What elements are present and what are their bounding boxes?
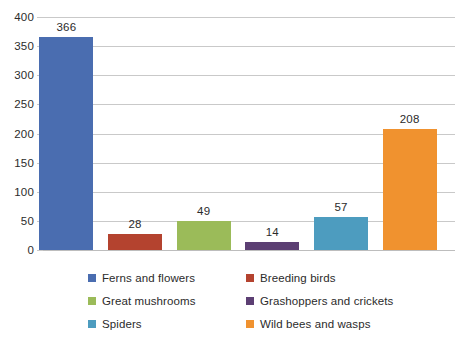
bar[interactable]: 14 <box>245 242 299 250</box>
y-axis-label: 50 <box>21 215 34 227</box>
bar[interactable]: 28 <box>108 234 162 250</box>
y-axis-label: 400 <box>14 11 34 23</box>
y-tick-mark-0 <box>37 250 43 251</box>
legend-swatch-icon <box>246 274 254 282</box>
gridline-400 <box>43 17 455 18</box>
y-axis-label: 200 <box>14 128 34 140</box>
bar-value-label: 28 <box>128 218 141 230</box>
plot-area: 400350300250200150100500 36628491457208 <box>43 17 455 250</box>
legend-swatch-icon <box>88 274 96 282</box>
gridline-0 <box>43 250 455 251</box>
legend-item[interactable]: Grashoppers and crickets <box>246 295 448 307</box>
legend-label: Spiders <box>102 318 142 330</box>
y-axis-label: 300 <box>14 69 34 81</box>
bar-value-label: 366 <box>56 21 76 33</box>
bar-value-label: 14 <box>266 226 279 238</box>
y-axis-label: 250 <box>14 98 34 110</box>
bar[interactable]: 57 <box>314 217 368 250</box>
bar-value-label: 57 <box>334 201 347 213</box>
legend-item[interactable]: Spiders <box>88 318 240 330</box>
legend-label: Ferns and flowers <box>102 272 195 284</box>
bar[interactable]: 208 <box>383 129 437 250</box>
bar-chart: 400350300250200150100500 36628491457208 … <box>0 0 463 341</box>
legend-swatch-icon <box>88 297 96 305</box>
legend-item[interactable]: Breeding birds <box>246 272 448 284</box>
legend-label: Great mushrooms <box>102 295 196 307</box>
legend-label: Breeding birds <box>260 272 336 284</box>
y-axis-label: 150 <box>14 157 34 169</box>
y-axis-label: 100 <box>14 186 34 198</box>
bar[interactable]: 366 <box>39 37 93 250</box>
legend-item[interactable]: Great mushrooms <box>88 295 240 307</box>
legend-item[interactable]: Wild bees and wasps <box>246 318 448 330</box>
chart-legend: Ferns and flowersBreeding birdsGreat mus… <box>88 266 448 335</box>
legend-label: Grashoppers and crickets <box>260 295 393 307</box>
y-axis-label: 0 <box>27 244 34 256</box>
bar-value-label: 208 <box>400 113 420 125</box>
y-axis-label: 350 <box>14 40 34 52</box>
bar-value-label: 49 <box>197 205 210 217</box>
legend-swatch-icon <box>246 320 254 328</box>
bar[interactable]: 49 <box>177 221 231 250</box>
gridline-250 <box>43 104 455 105</box>
legend-swatch-icon <box>246 297 254 305</box>
legend-swatch-icon <box>88 320 96 328</box>
y-tick-mark-400 <box>37 17 43 18</box>
gridline-350 <box>43 46 455 47</box>
gridline-300 <box>43 75 455 76</box>
legend-label: Wild bees and wasps <box>260 318 371 330</box>
legend-item[interactable]: Ferns and flowers <box>88 272 240 284</box>
